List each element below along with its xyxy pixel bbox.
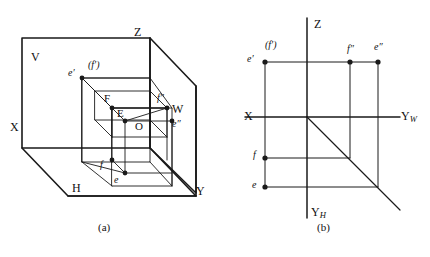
dot-b-e-double-prime xyxy=(375,59,380,64)
caption-panel-a: (a) xyxy=(98,222,110,233)
label-b-axis-yh-main: Y xyxy=(311,205,320,219)
label-b-axis-yw-sub: W xyxy=(410,114,417,124)
label-b-axis-yw-main: Y xyxy=(401,109,410,123)
label-a-plane-h: H xyxy=(72,182,81,194)
label-b-e-lower: e xyxy=(252,180,256,190)
miter-line-45 xyxy=(307,117,400,210)
label-a-f-double-prime: f″ xyxy=(157,93,164,103)
inner-face-depth-d xyxy=(150,120,167,137)
label-a-plane-v: V xyxy=(31,51,40,63)
dot-b-f-lower xyxy=(262,155,267,160)
label-b-axis-yh: YH xyxy=(311,206,326,220)
label-a-e-double-prime: e″ xyxy=(172,119,181,129)
inner-face-depth-c xyxy=(95,120,112,137)
dot-f-lower xyxy=(110,158,115,163)
dot-e-lower xyxy=(123,171,128,176)
h-plane-outline xyxy=(22,148,196,196)
label-a-axis-y: Y xyxy=(196,185,205,197)
figure-root: V H W X Y Z O e′ (f′) F E f″ e″ f e X Z … xyxy=(0,0,430,257)
label-b-e-double-prime: e″ xyxy=(374,42,383,52)
dot-b-e-lower xyxy=(262,184,267,189)
dot-b-f-double-prime xyxy=(347,59,352,64)
dot-b-e-prime xyxy=(262,59,267,64)
proj-E-to-fdbl xyxy=(125,108,167,121)
label-b-axis-z: Z xyxy=(314,18,321,30)
label-b-axis-yw: YW xyxy=(401,110,417,124)
label-a-F-space: F xyxy=(104,93,110,104)
label-b-axis-x: X xyxy=(244,110,253,122)
label-a-E-space: E xyxy=(117,108,124,119)
label-b-axis-yh-sub: H xyxy=(320,210,326,220)
dot-e-prime xyxy=(80,76,85,81)
label-a-e-lower: e xyxy=(114,175,118,185)
dot-f-double-prime xyxy=(165,106,170,111)
label-a-e-prime: e′ xyxy=(68,68,75,78)
v-plane-outline xyxy=(22,38,150,148)
label-b-f-lower: f xyxy=(253,150,256,160)
label-b-f-double-prime: f″ xyxy=(347,44,354,54)
figure-svg xyxy=(0,0,430,257)
dot-F-space xyxy=(110,106,115,111)
label-b-f-prime: (f′) xyxy=(265,40,277,50)
caption-panel-b: (b) xyxy=(317,222,330,233)
label-a-f-lower: f xyxy=(100,160,103,170)
dot-E-space xyxy=(123,119,128,124)
label-a-plane-w: W xyxy=(172,103,183,115)
label-a-f-prime: (f′) xyxy=(88,60,100,70)
panel-a-graphics xyxy=(22,38,196,196)
label-b-e-prime: e′ xyxy=(247,54,254,64)
label-a-axis-z: Z xyxy=(134,26,141,38)
label-a-origin-o: O xyxy=(135,121,143,132)
label-a-axis-x: X xyxy=(10,121,19,133)
